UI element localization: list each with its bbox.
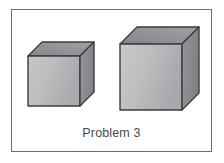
figure-root: Problem 3 (0, 0, 224, 163)
figure-caption-text: Problem 3 (82, 127, 140, 140)
figure-caption: Problem 3 (12, 122, 211, 144)
